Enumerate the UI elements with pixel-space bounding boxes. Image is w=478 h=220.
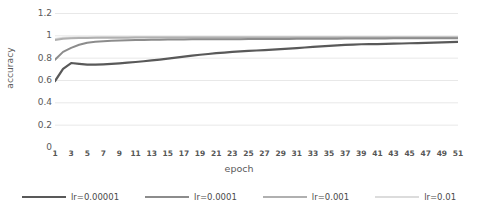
legend-label: lr=0.00001 (71, 192, 119, 202)
x-tick-label: 3 (69, 149, 74, 158)
series-lines (55, 37, 458, 81)
x-tick-label: 19 (195, 149, 205, 158)
y-tick-label: 0 (46, 142, 52, 152)
x-tick-label: 35 (324, 149, 334, 158)
x-tick-label: 11 (130, 149, 140, 158)
x-tick-label: 9 (117, 149, 122, 158)
y-tick-label: 0.4 (38, 97, 52, 107)
series-line (55, 38, 458, 60)
legend-item[interactable]: lr=0.001 (263, 192, 349, 202)
x-tick-label: 45 (404, 149, 414, 158)
x-tick-label: 43 (388, 149, 398, 158)
x-tick-label: 39 (356, 149, 366, 158)
x-tick-label: 7 (101, 149, 106, 158)
legend-line-swatch (263, 196, 307, 198)
x-tick-label: 51 (453, 149, 463, 158)
x-tick-label: 41 (372, 149, 382, 158)
accuracy-vs-epoch-chart: accuracy 00.20.40.60.811.2 1357911131517… (0, 0, 478, 220)
y-tick-label: 0.8 (38, 53, 52, 63)
legend-label: lr=0.001 (312, 192, 349, 202)
legend-label: lr=0.01 (424, 192, 456, 202)
series-line (55, 42, 458, 81)
x-tick-label: 47 (421, 149, 431, 158)
x-axis-title: epoch (0, 163, 478, 174)
y-axis-title: accuracy (5, 37, 15, 99)
plot-svg (55, 13, 458, 147)
x-tick-label: 49 (437, 149, 447, 158)
x-axis-tick-labels: 1357911131517192123252729313335373941434… (55, 149, 458, 161)
legend-item[interactable]: lr=0.01 (375, 192, 456, 202)
y-tick-label: 0.6 (38, 75, 52, 85)
chart-legend: lr=0.00001lr=0.0001lr=0.001lr=0.01 (0, 192, 478, 202)
x-tick-label: 31 (292, 149, 302, 158)
gridlines (55, 14, 458, 148)
x-tick-label: 37 (340, 149, 350, 158)
legend-line-swatch (145, 196, 189, 198)
plot-area (55, 13, 458, 147)
x-tick-label: 29 (275, 149, 285, 158)
x-tick-label: 21 (211, 149, 221, 158)
x-tick-label: 15 (163, 149, 173, 158)
x-tick-label: 17 (179, 149, 189, 158)
x-tick-label: 33 (308, 149, 318, 158)
legend-line-swatch (375, 196, 419, 198)
x-tick-label: 5 (85, 149, 90, 158)
y-tick-label: 1 (46, 30, 52, 40)
y-tick-label: 1.2 (38, 8, 52, 18)
legend-label: lr=0.0001 (194, 192, 237, 202)
x-tick-label: 27 (259, 149, 269, 158)
x-tick-label: 23 (227, 149, 237, 158)
x-tick-label: 25 (243, 149, 253, 158)
legend-item[interactable]: lr=0.0001 (145, 192, 237, 202)
y-tick-label: 0.2 (38, 120, 52, 130)
x-tick-label: 1 (52, 149, 57, 158)
y-axis-tick-labels: 00.20.40.60.811.2 (16, 0, 52, 220)
x-tick-label: 13 (147, 149, 157, 158)
legend-line-swatch (22, 196, 66, 198)
legend-item[interactable]: lr=0.00001 (22, 192, 119, 202)
